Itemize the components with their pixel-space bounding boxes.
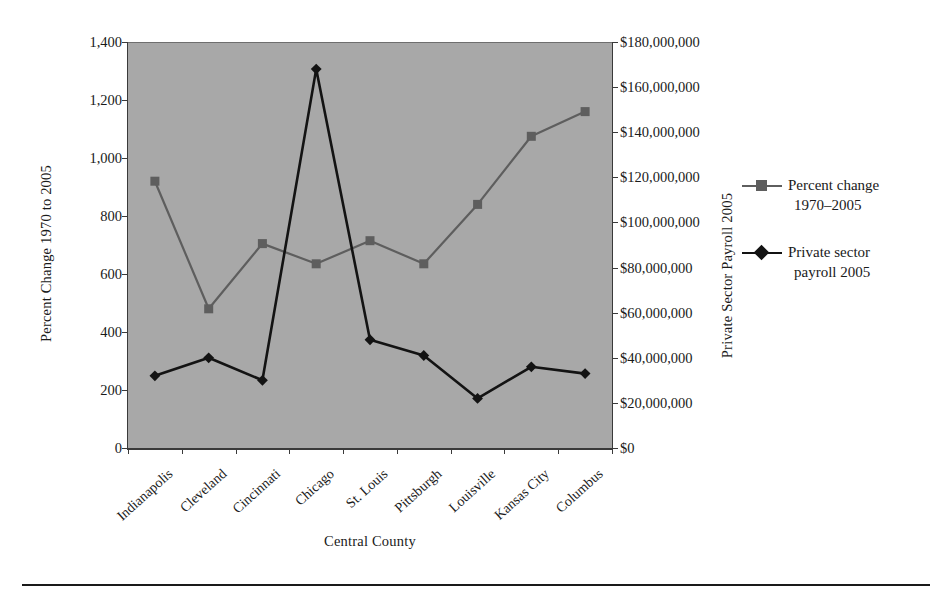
x-axis-category-label: Indianapolis	[114, 466, 176, 524]
chart-figure: Percent Change 1970 to 2005 Private Sect…	[0, 0, 942, 595]
x-axis-category-label: Louisville	[446, 466, 499, 516]
x-axis-category-label: Pittsburgh	[392, 466, 445, 516]
x-axis-category-label: Cincinnati	[230, 466, 284, 517]
footer-divider	[22, 584, 930, 586]
x-axis-category-label: Kansas City	[491, 466, 552, 523]
legend-key	[742, 177, 782, 195]
legend-label-line2: 1970–2005	[788, 195, 879, 215]
legend-label: Private sectorpayroll 2005	[782, 242, 870, 283]
diamond-marker-icon	[754, 244, 770, 260]
legend-label-line2: payroll 2005	[788, 262, 870, 282]
chart-legend: Percent change1970–2005Private sectorpay…	[742, 175, 938, 308]
square-marker-icon	[756, 180, 767, 191]
legend-item[interactable]: Private sectorpayroll 2005	[742, 242, 938, 283]
legend-label-line1: Percent change	[788, 175, 879, 195]
legend-label-line1: Private sector	[788, 242, 870, 262]
legend-item[interactable]: Percent change1970–2005	[742, 175, 938, 216]
x-axis-category-label: Columbus	[553, 466, 606, 516]
x-axis-category-label: St. Louis	[343, 466, 391, 512]
legend-label: Percent change1970–2005	[782, 175, 879, 216]
x-axis-category-label: Chicago	[292, 466, 337, 509]
legend-key	[742, 244, 782, 262]
x-axis-category-label: Cleveland	[177, 466, 230, 516]
